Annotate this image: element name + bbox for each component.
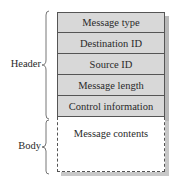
field-label: Source ID bbox=[90, 59, 133, 70]
field-message-type: Message type bbox=[57, 12, 165, 33]
header-group-label: Header bbox=[2, 58, 41, 69]
field-source-id: Source ID bbox=[57, 54, 165, 75]
field-control-information: Control information bbox=[57, 96, 165, 117]
field-label: Message type bbox=[82, 17, 139, 28]
header-brace-icon bbox=[40, 10, 52, 120]
field-label: Message length bbox=[78, 80, 144, 91]
field-label: Destination ID bbox=[80, 38, 142, 49]
field-destination-id: Destination ID bbox=[57, 33, 165, 54]
message-format-box: Message type Destination ID Source ID Me… bbox=[57, 12, 165, 172]
body-brace-icon bbox=[40, 119, 52, 175]
field-message-contents: Message contents bbox=[57, 117, 165, 172]
field-label: Control information bbox=[69, 101, 153, 112]
field-label: Message contents bbox=[74, 128, 148, 139]
body-group-label: Body bbox=[2, 140, 41, 151]
field-message-length: Message length bbox=[57, 75, 165, 96]
